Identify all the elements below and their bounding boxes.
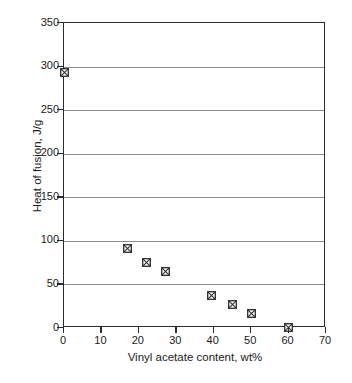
gridline-horizontal xyxy=(64,241,324,242)
y-axis-tick-label: 350 xyxy=(41,17,59,28)
gridline-horizontal xyxy=(64,284,324,285)
x-axis-tick xyxy=(175,327,176,333)
x-axis-tick-label: 70 xyxy=(310,334,340,346)
chart-figure: 050100150200250300350 010203040506070 Vi… xyxy=(0,0,352,383)
y-axis-tick-label: 200 xyxy=(41,147,59,158)
x-axis-tick-label: 0 xyxy=(48,334,78,346)
y-axis-tick-label: 150 xyxy=(41,191,59,202)
x-axis-tick xyxy=(213,327,214,333)
x-axis-tick-label: 40 xyxy=(198,334,228,346)
gridline-horizontal xyxy=(64,67,324,68)
data-point-marker xyxy=(247,309,256,318)
x-axis-tick xyxy=(100,327,101,333)
plot-area xyxy=(63,22,325,327)
gridline-horizontal xyxy=(64,197,324,198)
x-axis-tick xyxy=(288,327,289,333)
data-point-marker xyxy=(228,300,237,309)
y-axis-tick-label: 50 xyxy=(47,278,59,289)
x-axis-tick-label: 30 xyxy=(160,334,190,346)
x-axis-tick-label: 60 xyxy=(273,334,303,346)
x-axis-tick-label: 50 xyxy=(235,334,265,346)
y-axis-tick-label: 0 xyxy=(53,322,59,333)
data-point-marker xyxy=(161,267,170,276)
x-axis-tick xyxy=(138,327,139,333)
gridline-horizontal xyxy=(64,110,324,111)
data-point-marker xyxy=(60,68,69,77)
y-axis-tick-label: 100 xyxy=(41,234,59,245)
x-axis-tick xyxy=(325,327,326,333)
y-axis-tick-label: 250 xyxy=(41,104,59,115)
x-axis-title: Vinyl acetate content, wt% xyxy=(0,351,352,363)
x-axis-tick xyxy=(250,327,251,333)
gridline-horizontal xyxy=(64,154,324,155)
y-axis-tick-label: 300 xyxy=(41,60,59,71)
x-axis-tick xyxy=(63,327,64,333)
data-point-marker xyxy=(123,244,132,253)
data-point-marker xyxy=(142,258,151,267)
y-axis-title: Heat of fusion, J/g xyxy=(31,66,43,266)
x-axis-tick-label: 20 xyxy=(123,334,153,346)
x-axis-tick-label: 10 xyxy=(85,334,115,346)
data-point-marker xyxy=(207,291,216,300)
